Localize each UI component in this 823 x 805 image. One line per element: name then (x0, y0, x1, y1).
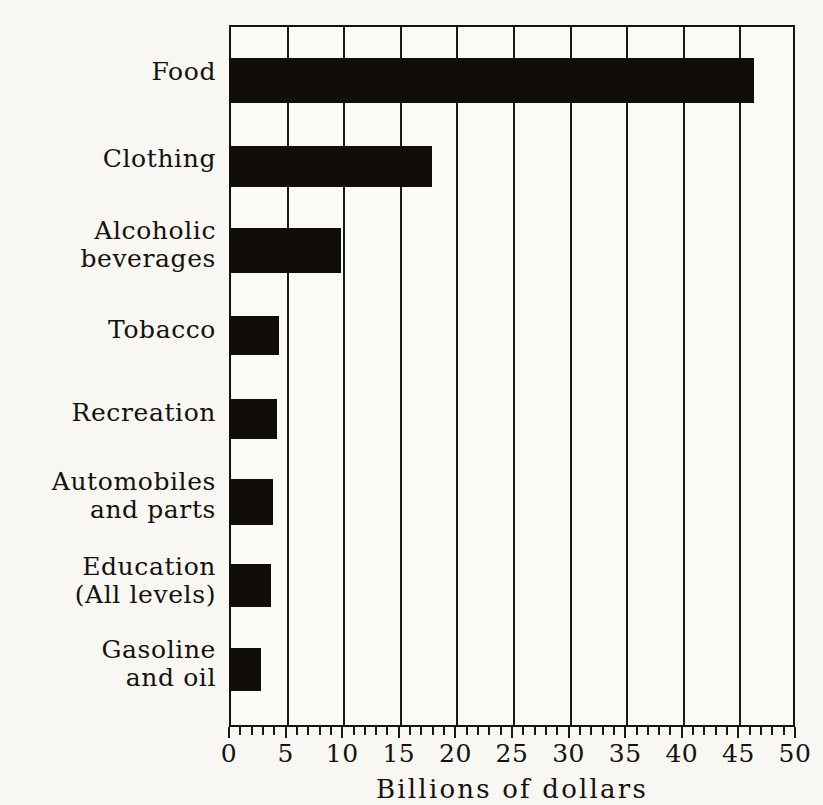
tick-major-50 (794, 727, 796, 738)
tick-minor-37 (647, 727, 649, 735)
tick-minor-33 (602, 727, 604, 735)
tick-major-25 (511, 727, 513, 738)
tick-minor-13 (375, 727, 377, 735)
tick-minor-3 (262, 727, 264, 735)
bar-food (229, 58, 754, 103)
tick-minor-47 (760, 727, 762, 735)
tick-major-30 (568, 727, 570, 738)
tick-major-0 (228, 727, 230, 738)
tick-minor-23 (488, 727, 490, 735)
tick-minor-49 (783, 727, 785, 735)
category-label-2: Alcoholic beverages (80, 217, 216, 273)
tick-minor-11 (353, 727, 355, 735)
tick-minor-36 (636, 727, 638, 735)
tick-major-5 (285, 727, 287, 738)
bar-automobiles-and-parts (229, 479, 273, 525)
tick-minor-8 (319, 727, 321, 735)
category-label-4: Recreation (72, 399, 216, 427)
tick-major-15 (398, 727, 400, 738)
category-label-6: Education (All levels) (75, 553, 216, 609)
chart-page: FoodClothingAlcoholic beveragesTobaccoRe… (0, 0, 823, 805)
category-label-5: Automobiles and parts (52, 468, 216, 524)
x-tick-label-0: 0 (221, 739, 237, 768)
x-axis: Billions of dollars 05101520253035404550 (229, 727, 795, 805)
bar-recreation (229, 399, 277, 439)
tick-minor-6 (296, 727, 298, 735)
category-label-1: Clothing (103, 145, 216, 173)
category-label-7: Gasoline and oil (102, 636, 216, 692)
tick-minor-26 (522, 727, 524, 735)
tick-minor-48 (771, 727, 773, 735)
category-label-3: Tobacco (108, 316, 216, 344)
tick-major-40 (681, 727, 683, 738)
tick-minor-7 (307, 727, 309, 735)
tick-minor-12 (364, 727, 366, 735)
tick-minor-27 (534, 727, 536, 735)
bar-education-all-levels (229, 564, 271, 607)
bar-alcoholic-beverages (229, 228, 341, 273)
tick-major-20 (454, 727, 456, 738)
tick-minor-43 (715, 727, 717, 735)
tick-minor-31 (579, 727, 581, 735)
tick-major-35 (624, 727, 626, 738)
tick-minor-16 (409, 727, 411, 735)
bar-tobacco (229, 316, 279, 355)
x-tick-label-15: 15 (382, 739, 415, 768)
tick-minor-29 (556, 727, 558, 735)
tick-minor-28 (545, 727, 547, 735)
tick-minor-46 (749, 727, 751, 735)
tick-minor-19 (443, 727, 445, 735)
tick-minor-39 (669, 727, 671, 735)
tick-minor-32 (590, 727, 592, 735)
tick-minor-41 (692, 727, 694, 735)
tick-minor-21 (466, 727, 468, 735)
x-axis-title: Billions of dollars (229, 774, 795, 804)
tick-minor-38 (658, 727, 660, 735)
x-tick-label-25: 25 (496, 739, 529, 768)
category-axis-labels: FoodClothingAlcoholic beveragesTobaccoRe… (0, 25, 224, 727)
tick-minor-22 (477, 727, 479, 735)
tick-minor-17 (420, 727, 422, 735)
x-tick-label-35: 35 (609, 739, 642, 768)
tick-minor-42 (703, 727, 705, 735)
bars-layer (229, 25, 795, 727)
x-tick-label-10: 10 (326, 739, 359, 768)
tick-major-10 (341, 727, 343, 738)
tick-minor-44 (726, 727, 728, 735)
x-tick-label-45: 45 (722, 739, 755, 768)
tick-minor-14 (386, 727, 388, 735)
tick-minor-2 (251, 727, 253, 735)
x-tick-label-5: 5 (277, 739, 293, 768)
tick-major-45 (737, 727, 739, 738)
bar-gasoline-and-oil (229, 648, 261, 691)
x-tick-label-30: 30 (552, 739, 585, 768)
tick-minor-34 (613, 727, 615, 735)
bar-clothing (229, 146, 432, 187)
tick-minor-24 (500, 727, 502, 735)
x-axis-tick-rail (229, 727, 795, 738)
x-tick-label-20: 20 (439, 739, 472, 768)
tick-minor-9 (330, 727, 332, 735)
x-tick-label-50: 50 (779, 739, 812, 768)
tick-minor-4 (273, 727, 275, 735)
x-tick-label-40: 40 (665, 739, 698, 768)
category-label-0: Food (152, 58, 217, 86)
tick-minor-1 (239, 727, 241, 735)
tick-minor-18 (432, 727, 434, 735)
